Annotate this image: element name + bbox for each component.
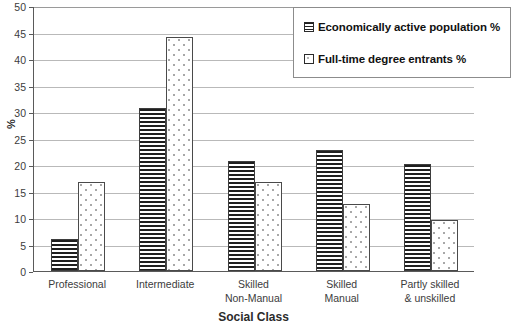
bar — [404, 164, 431, 271]
y-axis-tick-label: 10 — [2, 213, 26, 225]
bar — [51, 239, 78, 271]
y-axis-tick-label: 20 — [2, 160, 26, 172]
x-axis-label: Partly skilled& unskilled — [386, 277, 474, 305]
x-axis-label-line1: Professional — [48, 278, 106, 290]
bar — [166, 37, 193, 271]
x-axis-label: SkilledNon-Manual — [209, 277, 297, 305]
y-axis-tick-label: 5 — [2, 240, 26, 252]
legend-label: Full-time degree entrants % — [318, 53, 466, 65]
x-axis-label-line1: Skilled — [238, 278, 269, 290]
hatch-swatch-icon — [304, 22, 314, 32]
bar — [255, 182, 282, 271]
x-axis-label-line1: Intermediate — [136, 278, 194, 290]
y-axis-tick-label: 35 — [2, 81, 26, 93]
bar — [78, 182, 105, 271]
x-axis-label: Intermediate — [121, 277, 209, 291]
bar — [316, 150, 343, 271]
y-axis-tick-mark — [29, 272, 33, 273]
chart-legend: Economically active population % Full-ti… — [293, 7, 511, 78]
x-axis-title: Social Class — [33, 310, 474, 324]
y-axis-tick-label: 0 — [2, 266, 26, 278]
y-axis-tick-label: 45 — [2, 28, 26, 40]
x-axis-label-line1: Skilled — [326, 278, 357, 290]
legend-item-full-time-degree: Full-time degree entrants % — [304, 53, 466, 65]
x-axis-label-line2: Manual — [298, 291, 386, 305]
bar — [228, 161, 255, 271]
bar — [343, 204, 370, 271]
y-axis-tick-label: 15 — [2, 187, 26, 199]
y-axis-title: % — [5, 107, 17, 141]
y-axis-tick-label: 50 — [2, 1, 26, 13]
y-axis-tick-label: 40 — [2, 54, 26, 66]
bar — [431, 220, 458, 271]
x-axis-label-line2: & unskilled — [386, 291, 474, 305]
x-axis-label: Professional — [33, 277, 121, 291]
bar — [139, 108, 166, 271]
x-axis-label-line1: Partly skilled — [400, 278, 459, 290]
legend-label: Economically active population % — [318, 21, 500, 33]
legend-item-economically-active: Economically active population % — [304, 21, 500, 33]
x-axis-label-line2: Non-Manual — [209, 291, 297, 305]
x-axis-label: SkilledManual — [298, 277, 386, 305]
dots-swatch-icon — [304, 54, 314, 64]
